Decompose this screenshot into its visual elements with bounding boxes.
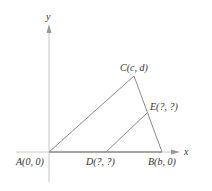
coordinate-diagram: y x C(c, d) E(?, ?) A(0, 0) D(?, ?) B(b,… (0, 0, 212, 191)
segment-cb (134, 76, 162, 152)
x-axis-label: x (183, 146, 189, 157)
point-e-label: E(?, ?) (149, 101, 178, 113)
point-d-label: D(?, ?) (85, 156, 116, 168)
point-c-label: C(c, d) (120, 62, 148, 74)
point-b-label: B(b, 0) (148, 156, 176, 168)
segment-ac (49, 76, 134, 152)
segment-de (106, 113, 147, 152)
y-axis-label: y (45, 11, 51, 22)
y-axis-arrowhead-icon (47, 24, 52, 33)
triangle-abc (49, 76, 162, 152)
point-a-label: A(0, 0) (15, 156, 44, 168)
x-axis-arrowhead-icon (171, 150, 180, 155)
y-axis: y (45, 11, 52, 182)
